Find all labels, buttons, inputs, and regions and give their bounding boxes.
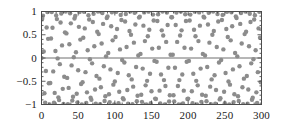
x-axis-tick-label: 100 — [106, 110, 123, 121]
x-axis-tick-label: 50 — [72, 110, 83, 121]
x-axis-tick-label: 250 — [216, 110, 233, 121]
x-axis-tick-label: 200 — [180, 110, 197, 121]
chart-figure: 10.50−0.5−1 050100150200250300 — [0, 0, 283, 134]
x-axis: 050100150200250300 — [0, 0, 283, 134]
x-axis-tick-label: 300 — [253, 110, 270, 121]
x-axis-tick-label: 150 — [143, 110, 160, 121]
x-axis-tick-label: 0 — [39, 110, 45, 121]
